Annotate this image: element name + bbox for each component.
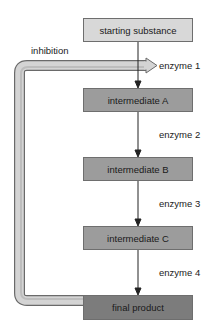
enzyme-2-label: enzyme 2 — [159, 129, 200, 140]
enzyme-3-label: enzyme 3 — [159, 198, 200, 209]
node-final-product: final product — [83, 295, 193, 320]
node-label: final product — [112, 302, 164, 313]
node-label: starting substance — [99, 25, 176, 36]
inhibition-arrowhead-icon — [146, 58, 157, 73]
node-label: intermediate B — [107, 164, 168, 175]
node-intermediate-c: intermediate C — [83, 226, 193, 250]
inhibition-label: inhibition — [31, 45, 69, 56]
node-starting-substance: starting substance — [83, 18, 193, 42]
enzyme-4-label: enzyme 4 — [159, 267, 200, 278]
enzyme-1-label: enzyme 1 — [159, 60, 200, 71]
node-intermediate-b: intermediate B — [83, 157, 193, 181]
node-intermediate-a: intermediate A — [83, 88, 193, 112]
node-label: intermediate A — [108, 95, 169, 106]
node-label: intermediate C — [107, 233, 169, 244]
